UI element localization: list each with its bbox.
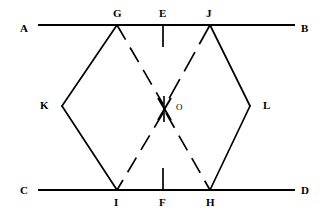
- diagonal-g-o: [117, 25, 163, 104]
- vertex-label-j: J: [206, 8, 212, 19]
- side-lh: [210, 106, 250, 190]
- side-jl: [210, 25, 250, 106]
- diagonal-o-i: [117, 113, 163, 190]
- vertex-label-k: K: [40, 100, 49, 111]
- diagonal-j-o: [166, 25, 210, 104]
- side-ki: [62, 106, 117, 190]
- vertex-label-o: O: [176, 103, 183, 112]
- geometry-figure: A B C D E F G H I J K L O: [0, 0, 322, 223]
- vertex-label-d: D: [301, 185, 309, 196]
- vertex-label-l: L: [263, 100, 271, 111]
- vertex-label-g: G: [113, 8, 122, 19]
- vertex-label-f: F: [159, 197, 166, 208]
- diagonal-o-h: [166, 113, 210, 190]
- vertex-label-c: C: [20, 185, 28, 196]
- vertex-label-h: H: [206, 197, 215, 208]
- side-gk: [62, 25, 117, 106]
- geometry-canvas: [0, 0, 322, 223]
- vertex-label-i: I: [114, 197, 118, 208]
- vertex-label-e: E: [159, 8, 167, 19]
- vertex-label-b: B: [301, 23, 309, 34]
- vertex-label-a: A: [20, 23, 28, 34]
